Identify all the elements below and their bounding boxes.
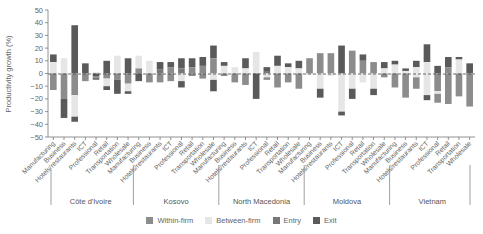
bar	[157, 62, 164, 82]
bar-segment-exit	[338, 112, 345, 116]
bar-segment-within-firm	[135, 68, 142, 73]
bar-segment-exit	[71, 25, 78, 73]
bar-segment-exit	[199, 57, 206, 66]
legend-item-within-firm: Within-firm	[146, 216, 193, 225]
bar-segment-within-firm	[360, 61, 367, 74]
bar-segment-within-firm	[189, 67, 196, 73]
y-tick-label: 50	[35, 6, 43, 15]
bar-segment-between-firm	[349, 74, 356, 89]
bar	[328, 53, 335, 76]
bar-segment-between-firm	[296, 68, 303, 73]
bar	[103, 61, 110, 90]
bar-segment-between-firm	[242, 68, 249, 73]
bar-segment-between-firm	[178, 74, 185, 82]
bar-segment-entry	[178, 68, 185, 73]
bar-segment-exit	[349, 89, 356, 99]
group-label: North Macedonia	[233, 197, 291, 206]
bar	[232, 67, 239, 82]
bar-segment-exit	[466, 63, 473, 73]
bar-segment-between-firm	[434, 91, 441, 94]
bar	[434, 66, 441, 103]
bar	[50, 54, 57, 90]
bar-segment-within-firm	[264, 77, 271, 80]
bar-segment-entry	[264, 71, 271, 74]
legend-swatch	[146, 217, 153, 224]
bar-segment-between-firm	[50, 62, 57, 73]
bar	[167, 62, 174, 81]
bar-segment-within-firm	[93, 76, 100, 77]
group-label: Côte d'Ivoire	[70, 197, 112, 206]
bar-segment-within-firm	[296, 74, 303, 89]
bar-segment-exit	[424, 44, 431, 62]
bar-segment-between-firm	[135, 56, 142, 69]
bar-segment-exit	[242, 58, 249, 68]
bar-segment-within-firm	[370, 62, 377, 73]
bar	[93, 72, 100, 80]
bar-segment-within-firm	[71, 74, 78, 96]
y-tick-label: −40	[30, 120, 43, 129]
y-tick-label: 30	[35, 31, 43, 40]
y-tick-label: −30	[30, 107, 43, 116]
bar	[242, 58, 249, 85]
y-axis: 50403020100−10−20−30−40−50	[30, 6, 48, 142]
bar	[306, 58, 313, 75]
legend: Within-firmBetween-firmEntryExit	[0, 216, 483, 225]
bar	[114, 56, 121, 94]
bar	[445, 57, 452, 104]
y-tick-label: −20	[30, 94, 43, 103]
bar	[456, 57, 463, 96]
bar-segment-exit	[285, 63, 292, 67]
bar-segment-between-firm	[360, 74, 367, 83]
bar-segment-within-firm	[317, 53, 324, 73]
legend-item-entry: Entry	[273, 216, 302, 225]
bar-segment-between-firm	[424, 74, 431, 96]
bar-segment-entry	[93, 77, 100, 80]
bar	[338, 46, 345, 116]
legend-label: Entry	[284, 216, 302, 225]
bar-segment-within-firm	[146, 74, 153, 83]
x-axis: ManufacturingBusinessHotels/restaurantsI…	[21, 137, 475, 184]
bar-segment-between-firm	[424, 62, 431, 73]
bar-segment-within-firm	[466, 74, 473, 107]
bar	[210, 46, 217, 92]
bar	[178, 58, 185, 87]
bar	[413, 61, 420, 89]
bar-segment-between-firm	[103, 79, 110, 87]
bar-segment-within-firm	[349, 51, 356, 74]
legend-label: Within-firm	[157, 216, 193, 225]
bar-segment-within-firm	[328, 53, 335, 73]
bar-segment-exit	[103, 61, 110, 74]
bar-segment-within-firm	[434, 74, 441, 92]
bar-segment-within-firm	[274, 74, 281, 88]
bar-segment-between-firm	[370, 74, 377, 89]
bar-segment-exit	[50, 54, 57, 62]
bar	[424, 44, 431, 100]
bar-segment-exit	[274, 56, 281, 66]
bar	[349, 51, 356, 99]
bar-segment-within-firm	[125, 74, 132, 84]
y-tick-label: 20	[35, 44, 43, 53]
bar-segment-within-firm	[210, 58, 217, 73]
bar-segment-exit	[221, 62, 228, 66]
legend-swatch	[313, 217, 320, 224]
bar-segment-exit	[317, 89, 324, 98]
bar-segment-within-firm	[392, 74, 399, 88]
bar	[264, 67, 271, 80]
bar	[71, 25, 78, 122]
bar	[253, 52, 260, 99]
bar-segment-exit	[178, 81, 185, 87]
bar-segment-exit	[424, 95, 431, 100]
bar-segment-within-firm	[167, 67, 174, 73]
bar-segment-exit	[167, 62, 174, 67]
bar	[189, 58, 196, 76]
bar-segment-exit	[402, 68, 409, 71]
bar-segment-between-firm	[456, 60, 463, 74]
bar-segment-within-firm	[114, 74, 121, 80]
bar	[82, 63, 89, 81]
bar	[370, 62, 377, 95]
bar	[402, 68, 409, 97]
bar-segment-within-firm	[242, 74, 249, 85]
bar-segment-within-firm	[61, 74, 68, 99]
bar-segment-exit	[125, 58, 132, 73]
bar-segment-within-firm	[199, 66, 206, 74]
